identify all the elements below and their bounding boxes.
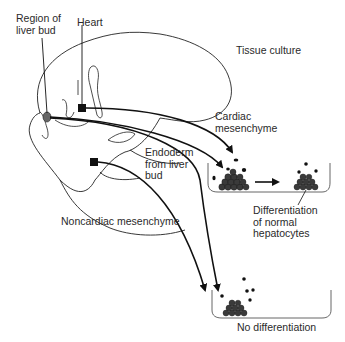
label-endoderm-from-liver-bud: Endoderm from liver bud — [145, 147, 193, 182]
label-cardiac-mesenchyme: Cardiac mesenchyme — [215, 111, 277, 134]
liver-bud-region — [43, 112, 51, 122]
cell-cluster-dish1-left — [219, 169, 249, 190]
label-differentiation-of-normal-hepatocytes: Differentiation of normal hepatocytes — [253, 205, 318, 240]
embryo-outline — [29, 32, 231, 235]
cell-cluster-dish1-right — [294, 174, 318, 190]
transfer-arrows — [50, 108, 278, 290]
mesenchyme-cells-dish2 — [220, 277, 255, 301]
noncardiac-sample-square — [90, 158, 98, 166]
label-no-differentiation: No differentiation — [237, 322, 316, 334]
label-region-of-liver-bud: Region of liver bud — [16, 13, 61, 36]
mesenchyme-cells-dish1-right — [297, 162, 317, 174]
label-heart: Heart — [77, 17, 103, 29]
label-tissue-culture: Tissue culture — [236, 45, 301, 57]
label-noncardiac-mesenchyme: Noncardiac mesenchyme — [61, 216, 179, 228]
heart-structures — [40, 66, 135, 143]
heart-sample-square — [78, 104, 86, 112]
cell-cluster-dish2 — [223, 300, 247, 316]
arrow-endoderm-to-dish1 — [50, 117, 222, 167]
